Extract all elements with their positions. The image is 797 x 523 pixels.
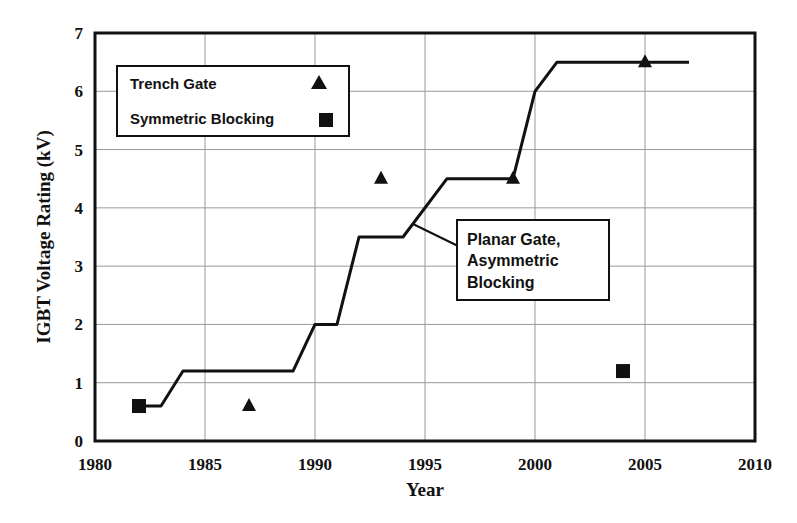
y-tick-label: 1 [75, 374, 84, 393]
y-tick-label: 2 [75, 315, 84, 334]
x-tick-label: 2005 [628, 455, 662, 474]
y-tick-label: 3 [75, 257, 84, 276]
annotation-line-2: Asymmetric [467, 252, 559, 269]
x-axis-label: Year [406, 479, 445, 500]
y-axis-label: IGBT Voltage Rating (kV) [33, 130, 55, 343]
y-tick-label: 4 [75, 199, 84, 218]
annotation-line-1: Planar Gate, [467, 231, 560, 248]
y-axis-ticks: 01234567 [75, 24, 84, 451]
y-tick-label: 7 [75, 24, 84, 43]
legend: Trench Gate Symmetric Blocking [117, 66, 349, 136]
x-tick-label: 1990 [298, 455, 332, 474]
x-tick-label: 2010 [738, 455, 772, 474]
y-tick-label: 6 [75, 82, 84, 101]
square-icon [132, 399, 146, 413]
x-tick-label: 1980 [78, 455, 112, 474]
legend-label-trench: Trench Gate [130, 75, 217, 92]
triangle-icon [374, 171, 388, 184]
y-tick-label: 5 [75, 141, 84, 160]
square-icon [319, 113, 333, 127]
annotation: Planar Gate, Asymmetric Blocking [413, 220, 609, 300]
annotation-line-3: Blocking [467, 274, 535, 291]
x-tick-label: 2000 [518, 455, 552, 474]
triangle-icon [242, 398, 256, 411]
voltage-rating-chart: 01234567 1980198519901995200020052010 Ye… [0, 0, 797, 523]
x-tick-label: 1985 [188, 455, 222, 474]
x-axis-ticks: 1980198519901995200020052010 [78, 455, 772, 474]
square-icon [616, 364, 630, 378]
legend-label-symmetric: Symmetric Blocking [130, 110, 274, 127]
y-tick-label: 0 [75, 432, 84, 451]
x-tick-label: 1995 [408, 455, 442, 474]
